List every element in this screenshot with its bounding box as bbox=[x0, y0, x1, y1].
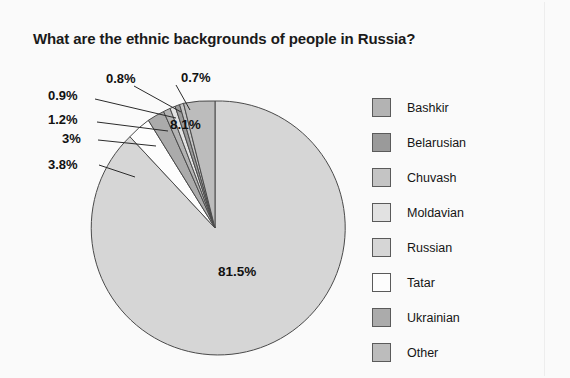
legend-swatch-russian bbox=[372, 238, 391, 257]
legend-label-moldavian: Moldavian bbox=[407, 206, 464, 220]
pie-slices bbox=[91, 101, 345, 355]
legend-item-bashkir[interactable]: Bashkir bbox=[372, 90, 542, 125]
pie-chart-svg: 0.7% 0.8% 0.9% 1.2% 3% 3.8% 8.1% 81.5% bbox=[0, 0, 380, 378]
legend-item-tatar[interactable]: Tatar bbox=[372, 265, 542, 300]
legend-label-ukrainian: Ukrainian bbox=[407, 311, 460, 325]
legend-label-chuvash: Chuvash bbox=[407, 171, 456, 185]
legend-swatch-moldavian bbox=[372, 203, 391, 222]
data-label-ukrainian: 3% bbox=[62, 131, 81, 146]
leader-line-belarusian bbox=[134, 86, 181, 112]
legend-label-russian: Russian bbox=[407, 241, 452, 255]
data-label-russian: 81.5% bbox=[218, 264, 256, 279]
legend-swatch-tatar bbox=[372, 273, 391, 292]
legend-item-belarusian[interactable]: Belarusian bbox=[372, 125, 542, 160]
data-label-tatar: 3.8% bbox=[48, 157, 78, 172]
legend-swatch-chuvash bbox=[372, 168, 391, 187]
legend-label-tatar: Tatar bbox=[407, 276, 435, 290]
legend-item-moldavian[interactable]: Moldavian bbox=[372, 195, 542, 230]
data-label-chuvash: 0.7% bbox=[181, 70, 211, 85]
legend-item-chuvash[interactable]: Chuvash bbox=[372, 160, 542, 195]
legend-swatch-ukrainian bbox=[372, 308, 391, 327]
data-label-moldavian: 0.9% bbox=[48, 88, 78, 103]
legend: Bashkir Belarusian Chuvash Moldavian Rus… bbox=[372, 90, 542, 370]
legend-label-bashkir: Bashkir bbox=[407, 101, 449, 115]
legend-swatch-other bbox=[372, 343, 391, 362]
data-label-other: 8.1% bbox=[170, 117, 201, 132]
data-label-belarusian: 0.8% bbox=[106, 71, 136, 86]
leader-line-moldavian bbox=[95, 99, 176, 118]
legend-label-belarusian: Belarusian bbox=[407, 136, 466, 150]
legend-item-other[interactable]: Other bbox=[372, 335, 542, 370]
chart-page: What are the ethnic backgrounds of peopl… bbox=[0, 0, 570, 378]
legend-swatch-bashkir bbox=[372, 98, 391, 117]
legend-item-ukrainian[interactable]: Ukrainian bbox=[372, 300, 542, 335]
pie-chart-area: 0.7% 0.8% 0.9% 1.2% 3% 3.8% 8.1% 81.5% bbox=[0, 0, 380, 378]
legend-swatch-belarusian bbox=[372, 133, 391, 152]
legend-label-other: Other bbox=[407, 346, 438, 360]
pie-slice-russian[interactable] bbox=[91, 101, 345, 355]
data-label-bashkir: 1.2% bbox=[48, 112, 78, 127]
legend-item-russian[interactable]: Russian bbox=[372, 230, 542, 265]
